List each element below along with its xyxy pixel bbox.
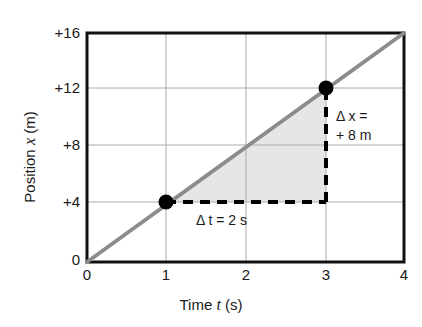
x-tick-label-4: 4: [389, 266, 419, 283]
x-tick-label-1: 1: [151, 266, 181, 283]
data-point-marker-2: [319, 81, 334, 96]
x-axis-title-suffix: (s): [221, 296, 243, 313]
y-tick-label-16: +16: [34, 24, 80, 41]
y-axis-title: Position x (m): [21, 67, 39, 247]
data-point-marker-1: [159, 195, 174, 210]
y-tick-label-8: +8: [34, 136, 80, 153]
x-axis-title: Time t (s): [0, 296, 422, 314]
position-time-graph-figure: +16 +12 +8 +4 0 0 1 2 3 4 Position x (m)…: [0, 0, 422, 327]
chart-canvas: [0, 0, 422, 327]
delta-t-annotation: Δ t = 2 s: [196, 211, 247, 230]
y-tick-label-12: +12: [34, 79, 80, 96]
y-axis-title-prefix: Position: [21, 145, 38, 203]
x-tick-label-2: 2: [231, 266, 261, 283]
x-axis-title-prefix: Time: [179, 296, 216, 313]
y-axis-title-suffix: (m): [21, 111, 38, 138]
delta-x-annotation-line1: Δ x =: [336, 107, 371, 126]
x-tick-label-3: 3: [311, 266, 341, 283]
y-tick-label-4: +4: [34, 193, 80, 210]
delta-x-annotation: Δ x = + 8 m: [336, 107, 371, 145]
x-tick-label-0: 0: [72, 266, 102, 283]
delta-x-annotation-line2: + 8 m: [336, 126, 371, 145]
y-axis-title-symbol: x: [21, 138, 38, 145]
